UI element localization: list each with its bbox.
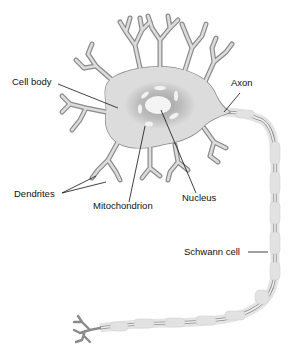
nucleus-core	[145, 96, 171, 114]
neuron-diagram	[0, 0, 291, 352]
mitochondrion	[145, 122, 153, 127]
nucleus	[124, 81, 196, 129]
label-mitochondrion: Mitochondrion	[93, 201, 153, 211]
axon-terminal	[74, 316, 100, 342]
label-cell-body: Cell body	[12, 77, 52, 87]
label-dendrites: Dendrites	[14, 189, 55, 199]
label-schwann-cell: Schwann cell	[184, 247, 240, 257]
label-axon: Axon	[231, 78, 253, 88]
label-nucleus: Nucleus	[182, 193, 216, 203]
